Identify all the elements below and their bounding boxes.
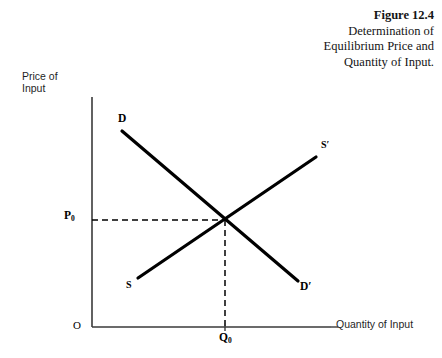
supply-curve-label-start: S [126,279,132,290]
quantity-symbol: Q [219,331,228,343]
supply-demand-plot [0,0,442,358]
figure-container: Figure 12.4 Determination of Equilibrium… [0,0,442,358]
equilibrium-price-label: P0 [64,209,75,221]
demand-curve [122,131,298,281]
equilibrium-quantity-label: Q0 [219,331,232,343]
demand-end-text: D′ [300,280,312,292]
supply-curve-label-end: S′ [321,139,329,150]
price-symbol: P [64,209,71,221]
quantity-subscript: 0 [228,336,232,345]
origin-label: O [73,319,81,331]
supply-end-text: S′ [321,139,329,150]
demand-curve-label-start: D [118,112,126,124]
supply-curve [138,157,316,278]
price-subscript: 0 [71,214,75,223]
demand-curve-label-end: D′ [300,280,312,292]
